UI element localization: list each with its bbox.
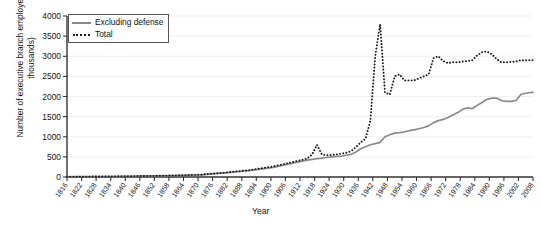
svg-text:1858: 1858 (155, 181, 172, 199)
svg-text:1894: 1894 (242, 181, 259, 199)
svg-text:1876: 1876 (199, 181, 216, 199)
svg-text:1918: 1918 (301, 181, 318, 199)
svg-text:1942: 1942 (359, 181, 376, 199)
svg-text:1870: 1870 (184, 181, 201, 199)
svg-text:1978: 1978 (446, 181, 463, 199)
y-axis-ticks: 05001000150020002500300035004000 (42, 11, 67, 182)
legend-label-excluding-defense: Excluding defense (95, 17, 163, 29)
svg-text:1984: 1984 (461, 181, 478, 199)
svg-text:1882: 1882 (213, 181, 230, 199)
svg-text:1948: 1948 (373, 181, 390, 199)
series-line-excluding-defense (67, 92, 533, 176)
svg-text:1828: 1828 (82, 181, 99, 199)
svg-text:3500: 3500 (42, 31, 61, 41)
svg-text:1500: 1500 (42, 112, 61, 122)
svg-text:2008: 2008 (519, 181, 536, 199)
data-series-layer (67, 24, 533, 177)
svg-text:1960: 1960 (403, 181, 420, 199)
legend-item-total: Total (72, 29, 163, 41)
svg-text:1852: 1852 (140, 181, 157, 199)
svg-text:500: 500 (47, 152, 61, 162)
svg-text:1906: 1906 (271, 181, 288, 199)
svg-text:1000: 1000 (42, 132, 61, 142)
svg-text:0: 0 (56, 172, 61, 182)
svg-text:1990: 1990 (475, 181, 492, 199)
svg-text:2000: 2000 (42, 92, 61, 102)
svg-text:3000: 3000 (42, 51, 61, 61)
legend-swatch-solid-line-icon (72, 18, 91, 27)
svg-text:1846: 1846 (126, 181, 143, 199)
svg-text:1924: 1924 (315, 181, 332, 199)
svg-text:1816: 1816 (53, 181, 70, 199)
svg-text:1864: 1864 (170, 181, 187, 199)
x-axis-ticks: 1816182218281834184018461852185818641870… (53, 177, 536, 199)
svg-text:1912: 1912 (286, 181, 303, 199)
svg-text:1840: 1840 (111, 181, 128, 199)
series-line-total (67, 24, 533, 177)
svg-text:1822: 1822 (68, 181, 85, 199)
svg-text:1888: 1888 (228, 181, 245, 199)
svg-text:1900: 1900 (257, 181, 274, 199)
svg-text:2500: 2500 (42, 71, 61, 81)
svg-text:2002: 2002 (504, 181, 521, 199)
svg-text:4000: 4000 (42, 11, 61, 21)
svg-text:1996: 1996 (490, 181, 507, 199)
svg-text:1936: 1936 (344, 181, 361, 199)
svg-text:1930: 1930 (330, 181, 347, 199)
svg-text:1954: 1954 (388, 181, 405, 199)
chart-legend: Excluding defense Total (68, 14, 169, 43)
svg-text:1834: 1834 (97, 181, 114, 199)
chart-figure: Number of executive branch employees (in… (0, 0, 541, 231)
svg-text:1966: 1966 (417, 181, 434, 199)
legend-label-total: Total (95, 29, 113, 41)
legend-item-excluding-defense: Excluding defense (72, 17, 163, 29)
svg-text:1972: 1972 (432, 181, 449, 199)
legend-swatch-dotted-line-icon (72, 30, 91, 39)
